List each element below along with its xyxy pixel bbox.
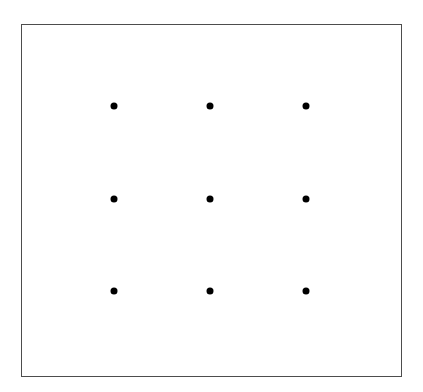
dot-r1-c1 bbox=[111, 103, 118, 110]
dot-r3-c2 bbox=[207, 288, 214, 295]
figure-canvas bbox=[0, 0, 423, 392]
dot-r3-c1 bbox=[111, 288, 118, 295]
dot-r1-c3 bbox=[303, 103, 310, 110]
dot-r1-c2 bbox=[207, 103, 214, 110]
dot-r3-c3 bbox=[303, 288, 310, 295]
dot-r2-c1 bbox=[111, 196, 118, 203]
puzzle-frame-rectangle bbox=[21, 24, 402, 377]
dot-r2-c2 bbox=[207, 196, 214, 203]
dot-r2-c3 bbox=[303, 196, 310, 203]
nine-dot-grid bbox=[22, 25, 401, 376]
